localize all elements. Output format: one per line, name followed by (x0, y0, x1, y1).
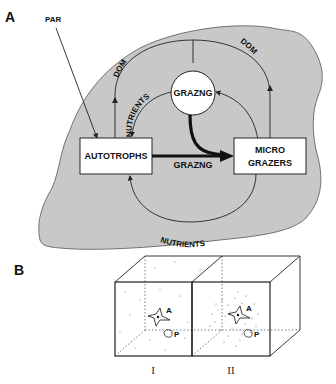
cube-pair (115, 256, 300, 356)
cube-2-grazer-icon (244, 329, 252, 337)
grazing-node-label: GRAZNG (174, 88, 213, 98)
diagram-canvas: A PAR DOM DOM NUTRIENTS GRAZNG AUTOTROPH… (0, 0, 336, 384)
cube-2-nutrient-cloud (209, 291, 258, 346)
cube-1-organism-a-label: A (166, 306, 172, 315)
micro-grazers-node (234, 138, 306, 174)
cube-1-grazer-icon (164, 329, 172, 337)
cube-2-roman-label: II (227, 364, 235, 376)
panel-b-label: B (14, 262, 24, 278)
autotrophs-label: AUTOTROPHS (85, 151, 148, 161)
panel-a-label: A (5, 9, 15, 25)
grazing-arrow-label: GRAZNG (174, 160, 213, 170)
cube-1-dots (119, 261, 200, 350)
micro-grazers-label-line1: MICRO (255, 145, 285, 155)
cube-2-organism-p-label: P (254, 330, 260, 339)
par-label: PAR (45, 15, 62, 24)
micro-grazers-label-line2: GRAZERS (248, 158, 292, 168)
cube-1-organism-p-label: P (174, 330, 180, 339)
cube-2-organism-a-label: A (246, 304, 252, 313)
cube-1-roman-label: I (151, 364, 155, 376)
cube-2-autotroph-nucleus (237, 314, 239, 316)
cube-1-autotroph-nucleus (157, 316, 159, 318)
